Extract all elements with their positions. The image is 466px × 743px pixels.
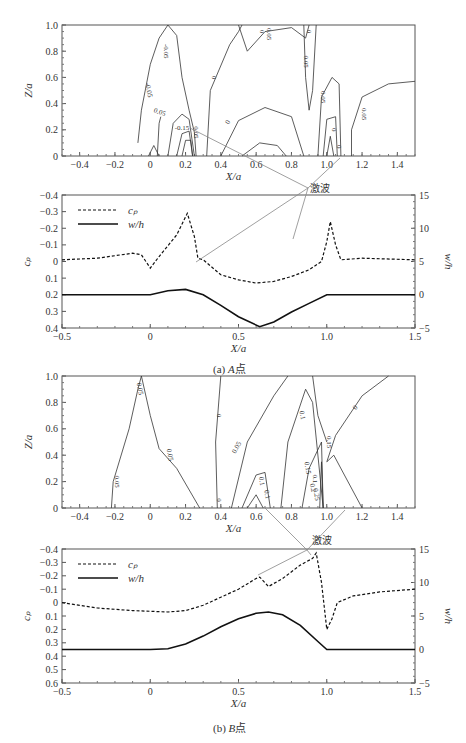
x-tick-label: 1.4 [391, 511, 404, 522]
contour-label: 0 [210, 76, 218, 80]
x-tick-label: 1.0 [321, 331, 334, 342]
contour-label: 0 [224, 118, 233, 125]
contour-label: 0 [215, 498, 223, 502]
caption-b-suffix: 点 [235, 722, 246, 734]
x-axis-label: X/a [230, 697, 247, 709]
contour-line [207, 25, 242, 156]
y-left-tick-label: 0 [53, 256, 58, 267]
y-left-tick-label: 0.5 [46, 664, 59, 675]
x-tick-label: 0 [148, 511, 153, 522]
contour-line [313, 376, 327, 442]
caption-a-suffix: 点 [235, 363, 246, 375]
y-left-tick-label: 0.6 [46, 678, 59, 689]
x-tick-label: −0.4 [71, 159, 89, 170]
contour-label: 0.05 [319, 91, 327, 104]
y-tick-label: 1.0 [46, 20, 59, 31]
y-tick-label: 0.2 [46, 476, 59, 487]
contour-label: 0 [305, 30, 313, 34]
y-left-tick-label: 0.1 [46, 611, 59, 622]
x-tick-label: 0.5 [232, 331, 245, 342]
y-left-tick-label: −0.3 [40, 557, 58, 568]
y-left-axis-label: cₚ [20, 611, 32, 621]
contour-line [168, 114, 195, 156]
y-left-tick-label: −0.4 [40, 544, 58, 555]
contour-line [327, 376, 389, 462]
contour-label: -0.15 [175, 124, 190, 132]
contour-line [182, 140, 193, 156]
contour-label: 0.05 [153, 106, 168, 118]
y-left-tick-label: 0 [53, 597, 58, 608]
legend-label: w/h [128, 218, 144, 230]
y-right-tick-label: 10 [419, 223, 429, 234]
contour-line [231, 376, 288, 508]
x-tick-label: 0.8 [285, 511, 298, 522]
x-axis-label: X/a [230, 342, 247, 354]
x-tick-label: 1.2 [356, 511, 369, 522]
x-tick-label: 0.4 [215, 159, 228, 170]
contour-label: 0 [258, 30, 266, 34]
y-left-tick-label: −0.1 [40, 239, 58, 250]
x-axis-label: X/a [225, 522, 242, 534]
y-left-tick-label: −0.2 [40, 570, 58, 581]
caption-a-prefix: (a) [213, 363, 225, 375]
contour-label: 0 [215, 414, 223, 418]
contour-line [327, 136, 334, 156]
contour-label: 0.15 [325, 436, 333, 449]
contour-line [221, 108, 304, 157]
x-tick-label: 0 [148, 686, 153, 697]
x-tick-label: −0.4 [71, 511, 89, 522]
series-w-h [62, 289, 415, 326]
x-tick-label: 0.6 [250, 511, 263, 522]
contour-label: 0.15 [303, 461, 313, 475]
y-left-tick-label: 0.3 [46, 306, 59, 317]
x-tick-label: 0.6 [250, 159, 263, 170]
b-line-panel: −0.500.51.01.5−0.4−0.3−0.2−0.100.10.20.3… [20, 544, 455, 710]
contour-label: 0.05 [135, 382, 145, 396]
shock-label: 激波 [312, 534, 332, 546]
y-left-tick-label: −0.2 [40, 223, 58, 234]
x-tick-label: 0 [148, 159, 153, 170]
contour-line [242, 143, 286, 156]
y-left-tick-label: 0.4 [46, 323, 59, 334]
y-right-tick-label: −5 [419, 323, 430, 334]
contour-label: 0.05 [165, 448, 175, 462]
y-left-tick-label: 0.2 [46, 289, 59, 300]
y-axis-label: Z/a [22, 83, 34, 98]
contour-label: 0 [330, 128, 338, 132]
caption-b: (b) B点 [213, 719, 246, 735]
x-tick-label: −0.2 [106, 511, 124, 522]
contour-line [239, 25, 310, 51]
legend-label: w/h [128, 572, 144, 584]
contour-label: 0.25 [311, 488, 321, 502]
y-left-tick-label: −0.4 [40, 190, 58, 201]
y-tick-label: 0.4 [46, 98, 59, 109]
y-left-tick-label: 0.2 [46, 624, 59, 635]
contour-line [141, 376, 199, 508]
shock-label: 激波 [310, 182, 330, 194]
y-right-tick-label: −5 [419, 678, 430, 689]
contour-line [320, 462, 324, 508]
y-tick-label: 1.0 [46, 371, 59, 382]
x-tick-label: 0 [148, 331, 153, 342]
x-tick-label: 1.0 [321, 686, 334, 697]
y-tick-label: 0.6 [46, 423, 59, 434]
x-tick-label: 1.0 [321, 511, 334, 522]
y-left-tick-label: −0.1 [40, 584, 58, 595]
contour-label: 0.05 [230, 440, 243, 455]
y-right-tick-label: 15 [419, 544, 429, 555]
contour-label: 0 [335, 145, 343, 149]
legend-label: cₚ [128, 204, 138, 216]
contour-label: -0.05 [162, 44, 170, 59]
y-right-axis-label: w/h [443, 608, 455, 624]
caption-a: (a) A点 [213, 360, 246, 376]
contour-line [247, 495, 263, 508]
contour-line [327, 455, 362, 508]
contour-label: 0.05 [265, 28, 273, 41]
contour-line [216, 376, 221, 508]
contour-line [157, 117, 161, 156]
x-tick-label: −0.2 [106, 159, 124, 170]
caption-a-point: A [228, 363, 235, 375]
x-tick-label: 1.2 [356, 159, 369, 170]
y-right-tick-label: 15 [419, 190, 429, 201]
x-tick-label: 0.8 [285, 159, 298, 170]
